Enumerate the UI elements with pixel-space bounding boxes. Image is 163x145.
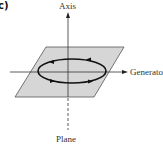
axis-label: Axis — [59, 1, 76, 11]
plane-label: Plane — [56, 134, 76, 144]
generator-label: Generato — [130, 67, 163, 77]
figure-axis-generator-plane: c) Axis Generato Plane — [0, 0, 163, 145]
panel-label: c) — [0, 0, 9, 12]
axis-arrowhead-icon — [66, 12, 70, 18]
generator-arrowhead-icon — [122, 70, 128, 74]
